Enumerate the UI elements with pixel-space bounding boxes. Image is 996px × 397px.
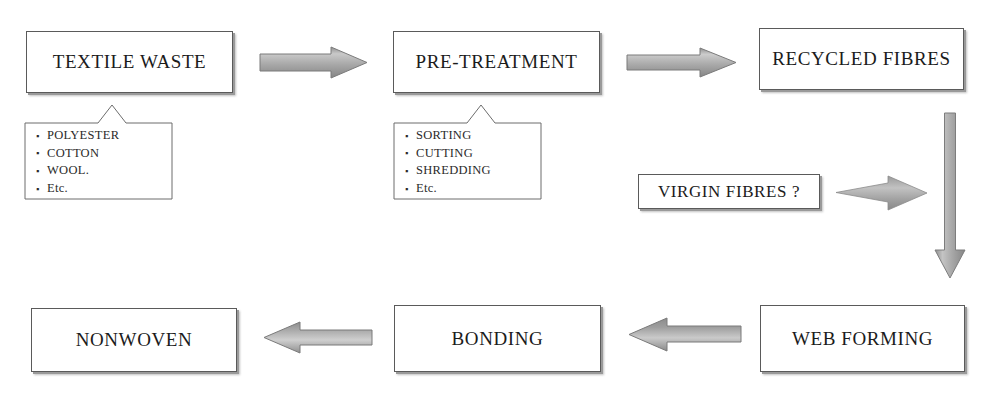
- arrow-web-forming-to-bonding: [627, 316, 743, 354]
- list-item: POLYESTER: [36, 127, 119, 145]
- node-nonwoven-label: NONWOVEN: [76, 329, 193, 351]
- callout-textile-waste-list: POLYESTER COTTON WOOL. Etc.: [36, 127, 119, 198]
- node-textile-waste-label: TEXTILE WASTE: [53, 51, 207, 73]
- node-textile-waste[interactable]: TEXTILE WASTE: [26, 31, 233, 93]
- list-item: CUTTING: [405, 145, 491, 163]
- node-bonding[interactable]: BONDING: [394, 305, 601, 372]
- arrow-bonding-to-nonwoven: [262, 320, 374, 356]
- list-item: SHREDDING: [405, 162, 491, 180]
- list-item: Etc.: [405, 180, 491, 198]
- list-item: WOOL.: [36, 162, 119, 180]
- node-nonwoven[interactable]: NONWOVEN: [31, 308, 237, 372]
- node-virgin-fibres[interactable]: VIRGIN FIBRES ?: [638, 174, 820, 209]
- callout-textile-waste-note: POLYESTER COTTON WOOL. Etc.: [24, 103, 179, 201]
- node-virgin-fibres-label: VIRGIN FIBRES ?: [658, 182, 800, 202]
- arrow-textile-waste-to-pre-treatment: [259, 46, 369, 80]
- list-item: SORTING: [405, 127, 491, 145]
- node-web-forming[interactable]: WEB FORMING: [760, 305, 965, 372]
- list-item: COTTON: [36, 145, 119, 163]
- node-bonding-label: BONDING: [452, 328, 544, 350]
- node-pre-treatment[interactable]: PRE-TREATMENT: [393, 31, 600, 93]
- list-item: Etc.: [36, 180, 119, 198]
- arrow-recycled-fibres-to-web-forming: [933, 112, 967, 282]
- node-pre-treatment-label: PRE-TREATMENT: [416, 51, 578, 73]
- node-web-forming-label: WEB FORMING: [792, 328, 933, 350]
- node-recycled-fibres-label: RECYCLED FIBRES: [772, 48, 950, 70]
- arrow-pre-treatment-to-recycled-fibres: [626, 46, 738, 80]
- callout-pre-treatment-note: SORTING CUTTING SHREDDING Etc.: [393, 103, 548, 201]
- node-recycled-fibres[interactable]: RECYCLED FIBRES: [759, 28, 964, 90]
- callout-pre-treatment-list: SORTING CUTTING SHREDDING Etc.: [405, 127, 491, 198]
- arrow-virgin-fibres-to-web-forming: [834, 174, 930, 212]
- flowchart-canvas: TEXTILE WASTE PRE-TREATMENT: [0, 0, 996, 397]
